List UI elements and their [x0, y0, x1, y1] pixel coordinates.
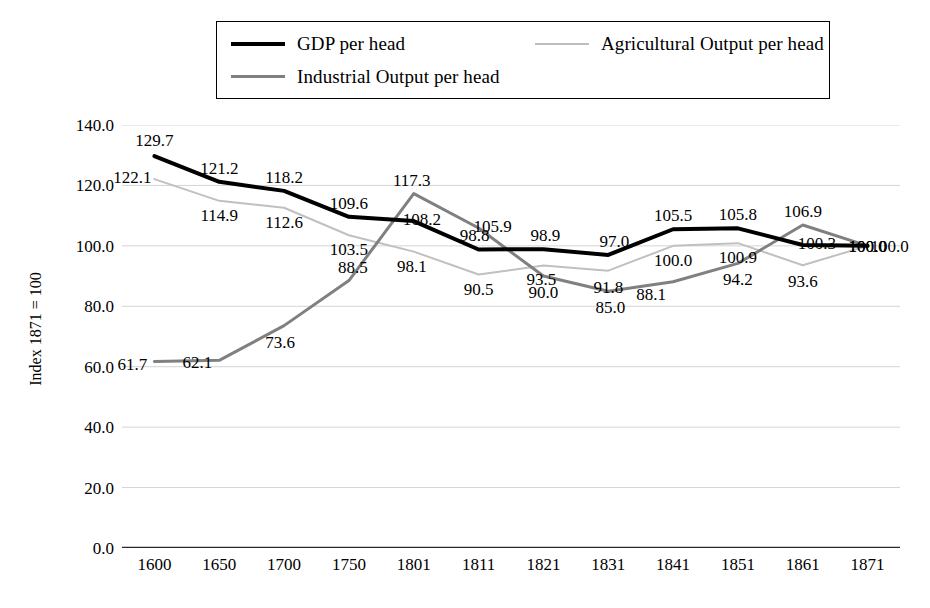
y-axis-tick-label: 40.0	[54, 419, 114, 436]
legend-label-gdp: GDP per head	[297, 34, 405, 53]
legend-entry-agricultural: Agricultural Output per head	[535, 34, 824, 53]
y-axis-tick-label: 0.0	[54, 540, 114, 557]
x-axis-tick-label: 1700	[249, 556, 319, 573]
y-axis-title: Index 1871 = 100	[27, 229, 45, 429]
data-point-label-gdp: 109.6	[330, 194, 368, 211]
data-point-label-ind: 88.5	[338, 258, 368, 275]
legend-entry-gdp: GDP per head	[231, 34, 405, 53]
chart-container: GDP per head Agricultural Output per hea…	[0, 0, 930, 608]
data-point-label-ind: 62.1	[182, 354, 212, 371]
legend-line-swatch-industrial-icon	[231, 75, 285, 78]
data-point-label-agri: 98.1	[397, 257, 427, 274]
data-point-label-gdp: 121.2	[200, 159, 238, 176]
data-point-label-gdp: 97.0	[599, 232, 629, 249]
x-axis-tick-label: 1871	[833, 556, 903, 573]
data-point-label-ind: 105.9	[473, 218, 511, 235]
data-point-label-agri: 112.6	[265, 213, 303, 230]
legend-label-agricultural: Agricultural Output per head	[601, 34, 824, 53]
plot-svg	[122, 125, 900, 548]
legend-line-swatch-gdp-icon	[231, 42, 285, 46]
x-axis-tick-label: 1841	[638, 556, 708, 573]
data-point-label-agri: 100.0	[654, 251, 692, 268]
data-point-label-gdp: 118.2	[265, 168, 303, 185]
data-point-label-agri: 114.9	[200, 206, 238, 223]
data-point-label-ind: 61.7	[118, 355, 148, 372]
y-axis-tick-label: 20.0	[54, 479, 114, 496]
data-point-label-ind: 90.0	[529, 284, 559, 301]
legend-entry-industrial: Industrial Output per head	[231, 67, 500, 86]
data-point-label-agri: 122.1	[113, 169, 151, 186]
data-point-label-agri: 93.6	[788, 273, 818, 290]
data-point-label-gdp: 129.7	[135, 132, 173, 149]
data-point-label-ind: 117.3	[393, 171, 431, 188]
y-axis-tick-label: 120.0	[54, 177, 114, 194]
x-axis-tick-label: 1811	[444, 556, 514, 573]
data-point-label-ind: 85.0	[595, 299, 625, 316]
data-point-label-ind: 88.1	[636, 285, 666, 302]
data-point-label-gdp: 105.5	[654, 207, 692, 224]
plot-area: 129.7121.2118.2109.6108.298.898.997.0105…	[122, 125, 900, 548]
y-axis-tick-label: 80.0	[54, 298, 114, 315]
x-axis-tick-label: 1821	[508, 556, 578, 573]
data-point-label-ind: 73.6	[265, 333, 295, 350]
y-axis-tick-label: 140.0	[54, 117, 114, 134]
x-axis-tick-label: 1831	[573, 556, 643, 573]
legend-label-industrial: Industrial Output per head	[297, 67, 500, 86]
legend-line-swatch-agricultural-icon	[535, 43, 589, 45]
data-point-label-agri: 103.5	[330, 241, 368, 258]
data-point-label-ind: 100.0	[848, 237, 886, 254]
x-axis-tick-label: 1750	[314, 556, 384, 573]
data-point-label-agri: 91.8	[593, 278, 623, 295]
data-point-label-gdp: 98.9	[531, 227, 561, 244]
chart-legend: GDP per head Agricultural Output per hea…	[216, 21, 830, 99]
x-axis-tick-label: 1650	[184, 556, 254, 573]
y-axis-tick-label: 60.0	[54, 358, 114, 375]
x-axis-tick-label: 1600	[119, 556, 189, 573]
data-point-label-gdp: 100.3	[798, 234, 836, 251]
data-point-label-agri: 100.9	[719, 249, 757, 266]
y-axis-tick-labels: 0.020.040.060.080.0100.0120.0140.0	[52, 0, 114, 608]
data-point-label-gdp: 105.8	[719, 206, 757, 223]
x-axis-tick-label: 1801	[379, 556, 449, 573]
data-point-label-ind: 106.9	[784, 203, 822, 220]
x-axis-tick-label: 1861	[768, 556, 838, 573]
data-point-label-ind: 94.2	[723, 271, 753, 288]
y-axis-tick-label: 100.0	[54, 237, 114, 254]
data-point-label-gdp: 108.2	[403, 211, 441, 228]
data-point-label-agri: 90.5	[464, 280, 494, 297]
x-axis-tick-label: 1851	[703, 556, 773, 573]
